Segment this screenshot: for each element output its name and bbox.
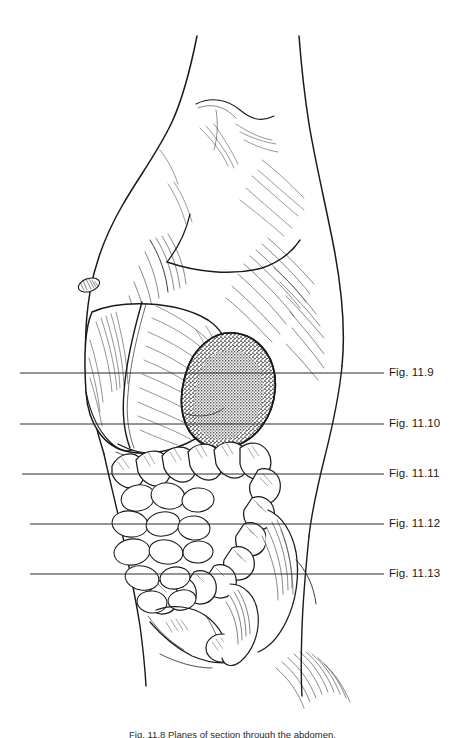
gluteal-muscle <box>258 510 316 652</box>
figure-caption: Fig. 11.8 Planes of section through the … <box>0 728 465 738</box>
anatomical-figure-page: Fig. 11.9 Fig. 11.10 Fig. 11.11 Fig. 11.… <box>0 0 465 738</box>
nipple <box>77 275 102 294</box>
pectoral-muscle <box>160 100 304 273</box>
thigh <box>276 652 350 708</box>
leader-label-4: Fig. 11.13 <box>389 567 440 579</box>
leader-label-0: Fig. 11.9 <box>389 366 434 378</box>
leader-label-2: Fig. 11.11 <box>389 467 439 479</box>
leader-label-1: Fig. 11.10 <box>389 417 440 429</box>
leader-label-3: Fig. 11.12 <box>389 517 440 529</box>
